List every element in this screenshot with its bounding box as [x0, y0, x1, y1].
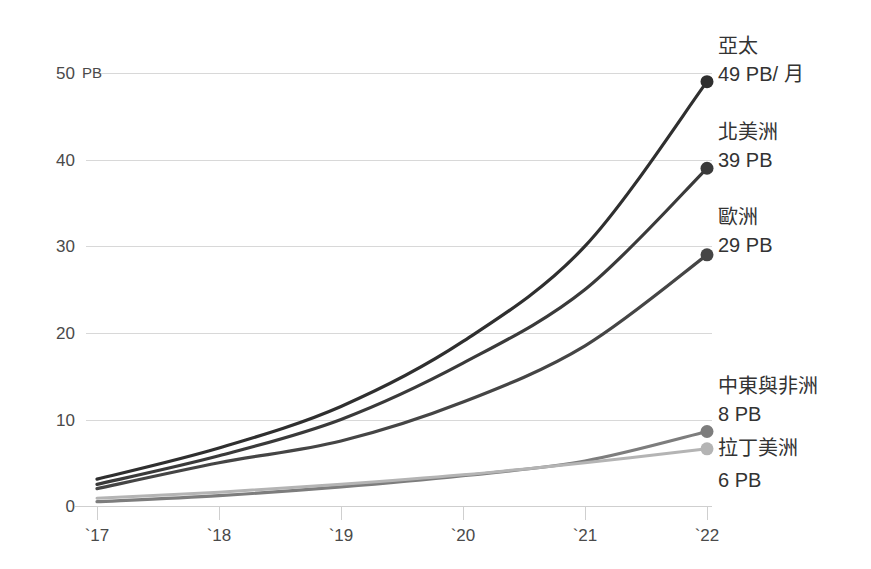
endpoint-dot-latin-america: [701, 442, 714, 455]
series-value-latin-america: 6 PB: [718, 469, 761, 491]
y-tick-label-10: 10: [56, 411, 75, 430]
line-chart-figure: 50 PB 40 30 20 10 0 `17 `18 `19 `20 `21 …: [0, 0, 871, 569]
y-tick-label-50: 50: [56, 64, 75, 83]
endpoint-dot-north-america: [701, 162, 714, 175]
y-tick-label-30: 30: [56, 237, 75, 256]
x-axis: [75, 506, 712, 520]
series-label-europe: 歐洲: [718, 206, 758, 228]
series-value-asia-pacific: 49 PB/ 月: [718, 63, 804, 85]
y-tick-label-20: 20: [56, 324, 75, 343]
x-tick-label-17: `17: [85, 526, 110, 545]
y-axis-unit-label: PB: [82, 64, 102, 81]
series-label-latin-america: 拉丁美洲: [718, 437, 798, 459]
series-line-middle-east-africa: [97, 432, 707, 502]
y-tick-label-0: 0: [66, 497, 75, 516]
x-tick-label-20: `20: [451, 526, 476, 545]
series-label-asia-pacific: 亞太: [718, 35, 758, 57]
endpoint-dot-middle-east-africa: [701, 425, 714, 438]
series-lines: [97, 82, 707, 502]
series-value-europe: 29 PB: [718, 234, 772, 256]
x-tick-label-22: `22: [695, 526, 720, 545]
y-axis-labels: 50 PB 40 30 20 10 0: [56, 64, 102, 516]
x-tick-label-18: `18: [207, 526, 232, 545]
y-tick-label-40: 40: [56, 151, 75, 170]
series-label-north-america: 北美洲: [718, 121, 778, 143]
chart-canvas: 50 PB 40 30 20 10 0 `17 `18 `19 `20 `21 …: [0, 0, 871, 569]
series-endpoint-dots: [701, 75, 714, 455]
series-value-middle-east-africa: 8 PB: [718, 403, 761, 425]
gridlines: [86, 73, 712, 420]
x-tick-label-21: `21: [573, 526, 598, 545]
x-tick-label-19: `19: [329, 526, 354, 545]
endpoint-dot-asia-pacific: [701, 75, 714, 88]
series-annotations: 亞太 49 PB/ 月 北美洲 39 PB 歐洲 29 PB 中東與非洲 8 P…: [718, 35, 818, 491]
series-value-north-america: 39 PB: [718, 149, 772, 171]
series-label-middle-east-africa: 中東與非洲: [718, 375, 818, 397]
endpoint-dot-europe: [701, 248, 714, 261]
x-axis-labels: `17 `18 `19 `20 `21 `22: [85, 526, 720, 545]
